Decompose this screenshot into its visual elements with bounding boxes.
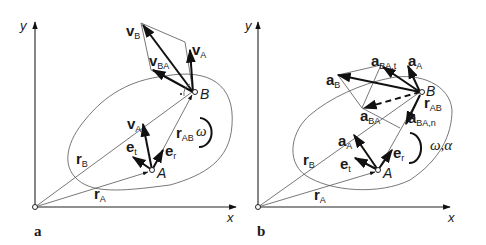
x-axis-label: x [226, 210, 234, 225]
point-B-label: B [200, 86, 209, 102]
panel-label: b [257, 223, 265, 239]
panel-a: y x a ω A B vB vA vBA vA rAB et [19, 18, 236, 239]
omega-label: ω [196, 123, 207, 139]
label-rB: rB [303, 151, 315, 170]
right-angle-dot [180, 93, 182, 95]
panel-b: y x b ω,α A B aBA,t aA aB rAB [244, 18, 455, 239]
label-vB: vB [126, 22, 140, 41]
rotation-omega-alpha-icon [409, 133, 421, 163]
label-vA-top: vA [192, 41, 206, 60]
y-axis-label: y [19, 18, 28, 33]
label-aA: aA [338, 132, 352, 151]
label-rA: rA [94, 185, 106, 204]
point-A-label: A [382, 165, 392, 181]
x-axis-label: x [447, 210, 455, 225]
vector-vBA [153, 70, 193, 92]
y-axis-label: y [244, 18, 253, 33]
kinematics-diagram: y x a ω A B vB vA vBA vA rAB et [0, 0, 486, 245]
label-rB: rB [76, 150, 88, 169]
label-et: et [126, 138, 137, 157]
label-et: et [340, 155, 351, 174]
label-er: er [393, 144, 404, 163]
panel-label: a [34, 223, 42, 239]
point-A-marker [376, 168, 381, 173]
point-A-marker [150, 168, 155, 173]
vector-vA [143, 124, 152, 170]
point-A-label: A [156, 165, 166, 181]
omega-alpha-label: ω,α [430, 137, 453, 153]
label-aBA: aBA [360, 107, 380, 126]
origin-marker [33, 205, 38, 210]
label-aBAt: aBA,t [371, 52, 397, 71]
label-vA: vA [127, 115, 141, 134]
vector-aBA [364, 92, 420, 108]
label-er: er [165, 142, 176, 161]
point-B-marker [193, 90, 198, 95]
label-aB: aB [326, 71, 340, 90]
label-rAB: rAB [176, 124, 194, 143]
origin-marker [256, 205, 261, 210]
label-aA-top: aA [408, 52, 422, 71]
